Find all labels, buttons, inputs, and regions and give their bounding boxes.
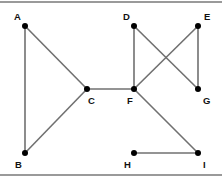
node-label-c: C <box>88 95 95 106</box>
node-label-b: B <box>15 159 22 170</box>
node-e <box>195 23 201 29</box>
node-g <box>195 86 201 92</box>
labels-layer: ABCDEFGHI <box>14 11 210 170</box>
node-label-i: I <box>203 159 206 170</box>
edges-layer <box>25 26 198 153</box>
node-label-d: D <box>123 11 130 22</box>
node-a <box>22 23 28 29</box>
node-label-h: H <box>124 159 131 170</box>
node-h <box>131 150 137 156</box>
node-label-a: A <box>14 11 21 22</box>
node-b <box>22 150 28 156</box>
edge-a-c <box>25 26 87 89</box>
node-c <box>84 86 90 92</box>
node-label-g: G <box>203 95 210 106</box>
graph-diagram: ABCDEFGHI <box>0 0 222 177</box>
edge-b-c <box>25 89 87 153</box>
node-f <box>131 86 137 92</box>
node-label-f: F <box>127 95 133 106</box>
node-d <box>131 23 137 29</box>
node-label-e: E <box>204 11 210 22</box>
node-i <box>195 150 201 156</box>
edge-f-i <box>134 89 198 153</box>
